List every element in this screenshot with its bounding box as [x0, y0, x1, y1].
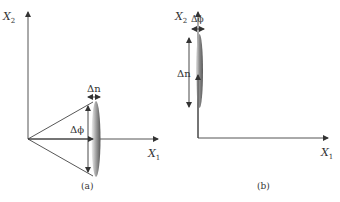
panel-a: X2 X1 Δn Δϕ (a) [2, 10, 160, 191]
x-axis-label-b: X1 [320, 146, 333, 161]
delta-n-label-b: Δn [177, 68, 191, 79]
cone-lower-a [28, 139, 93, 176]
ellipse-b [196, 34, 203, 108]
panel-b: X2 Δϕ Δn X1 (b) [174, 10, 333, 191]
delta-n-label-a: Δn [87, 83, 101, 94]
delta-phi-label-a: Δϕ [70, 124, 84, 135]
delta-phi-label-b: Δϕ [191, 14, 204, 24]
diagram-canvas: X2 X1 Δn Δϕ (a) X2 Δϕ Δn X1 (b) [0, 0, 340, 202]
caption-a: (a) [81, 181, 93, 191]
x-axis-label-a: X1 [147, 147, 160, 162]
y-axis-label-a: X2 [2, 10, 15, 25]
y-axis-label-b: X2 [174, 10, 187, 25]
caption-b: (b) [257, 181, 270, 191]
